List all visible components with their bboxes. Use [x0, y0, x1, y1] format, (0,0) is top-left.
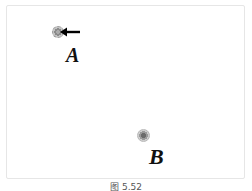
figure-caption: 图 5.52 [0, 183, 252, 191]
point-a-label: A [66, 45, 79, 65]
point-b-label: B [149, 146, 164, 168]
figure-frame [6, 5, 245, 179]
arrow-left-icon [60, 27, 80, 37]
point-b-marker-icon [137, 129, 150, 142]
